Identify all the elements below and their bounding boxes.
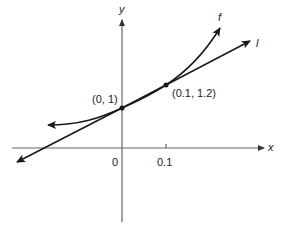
tangent-line-l-left bbox=[17, 108, 122, 162]
origin-label: 0 bbox=[112, 157, 118, 168]
point-label-0.1-1.2: (0.1, 1.2) bbox=[172, 88, 216, 99]
tick-label-0-1: 0.1 bbox=[157, 157, 172, 168]
curve-f-left bbox=[48, 108, 122, 125]
diagram-canvas bbox=[0, 0, 281, 232]
x-axis-label: x bbox=[268, 142, 274, 153]
point-0-1 bbox=[120, 106, 125, 111]
y-axis-label: y bbox=[119, 4, 125, 15]
line-l-label: l bbox=[256, 38, 258, 49]
point-label-0-1: (0, 1) bbox=[92, 94, 118, 105]
curve-f-label: f bbox=[218, 12, 221, 23]
point-0.1-1.2 bbox=[164, 83, 169, 88]
